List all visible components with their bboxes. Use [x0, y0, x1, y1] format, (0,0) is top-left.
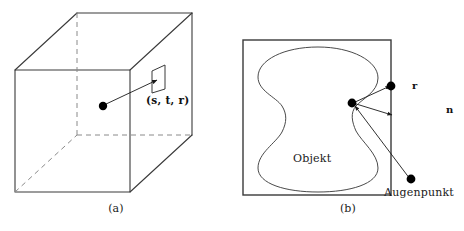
texture-coordinate-label-a: (s, t, r)	[146, 94, 190, 106]
normal-vector-arrow	[353, 103, 392, 115]
cube-front-face	[15, 70, 130, 192]
normal-vector-label: n	[446, 104, 453, 115]
cube-top-face-left-edge	[15, 13, 77, 70]
reflection-vector-arrow	[353, 86, 390, 103]
object-label: Objekt	[293, 152, 331, 165]
surface-point-dot	[348, 99, 357, 108]
panel-b-caption: (b)	[232, 202, 464, 215]
eye-point-dot	[407, 175, 416, 184]
cube-vector-graphic	[0, 0, 232, 231]
panel-b-reflection-diagram: (s, t, r) r n Objekt Augenpunkt (b)	[232, 0, 464, 231]
figure-root: (s, t, r) (a) (s, t, r	[0, 0, 464, 231]
panel-a-cube-diagram: (s, t, r) (a)	[0, 0, 232, 231]
environment-square-frame	[243, 40, 391, 195]
reflection-vector-label: r	[412, 80, 417, 91]
texel-patch	[152, 65, 165, 93]
object-outline	[258, 47, 378, 192]
eye-point-label: Augenpunkt	[384, 186, 454, 199]
cube-right-bottom-edge	[130, 135, 192, 192]
panel-a-caption: (a)	[0, 202, 232, 215]
cube-top-face-right-edge	[130, 13, 192, 70]
sample-point-dot	[99, 102, 107, 110]
view-ray-arrow	[355, 106, 410, 179]
cube-hidden-bottom-left-edge	[15, 135, 77, 192]
texture-lookup-point-dot	[387, 82, 396, 91]
